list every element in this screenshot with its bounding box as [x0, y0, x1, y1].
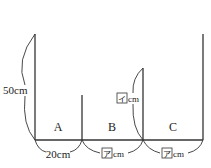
- answer-box-i-text: イ: [118, 95, 126, 104]
- height-brace-middle: [133, 68, 143, 93]
- height-brace-left: [22, 34, 35, 85]
- section-c-label: C: [169, 120, 177, 134]
- width-c-unit: cm: [173, 149, 184, 159]
- answer-box-a1-text: ア: [103, 150, 111, 159]
- section-a-label: A: [54, 120, 63, 134]
- height-brace-middle-lower: [133, 104, 143, 140]
- width-b-unit: cm: [113, 149, 124, 159]
- width-a-label: 20cm: [46, 148, 71, 160]
- partition-diagram: A B C 50cm イ cm 20cm ア cm ア cm: [0, 0, 211, 168]
- answer-box-a2-text: ア: [163, 150, 171, 159]
- section-b-label: B: [108, 120, 116, 134]
- height-middle-unit: cm: [128, 94, 139, 104]
- height-left-label: 50cm: [3, 84, 28, 96]
- height-brace-left-lower: [24, 96, 35, 140]
